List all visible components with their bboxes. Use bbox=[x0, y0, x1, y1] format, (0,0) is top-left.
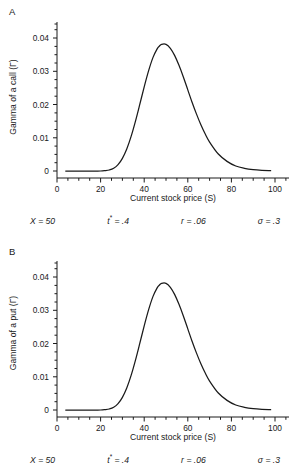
panel-b: B bbox=[0, 240, 301, 473]
panel-b-params: X = 50 t* = .4 r = .06 σ = .3 bbox=[30, 453, 280, 465]
param-strike-symbol: X bbox=[30, 455, 36, 465]
panel-b-xlabel: Current stock price (S) bbox=[57, 432, 289, 442]
param-rate: r = .06 bbox=[181, 214, 206, 226]
param-strike: X = 50 bbox=[30, 214, 55, 226]
y-major-ticks bbox=[53, 38, 57, 171]
y-tick-label-0: 0 bbox=[44, 166, 49, 176]
y-tick-label-4: 0.04 bbox=[33, 33, 50, 43]
gamma-call-curve bbox=[66, 44, 271, 171]
param-vol: σ = .3 bbox=[258, 453, 280, 465]
param-strike: X = 50 bbox=[30, 453, 55, 465]
param-vol: σ = .3 bbox=[258, 214, 280, 226]
param-vol-symbol: σ bbox=[258, 216, 263, 226]
param-vol-value: = .3 bbox=[265, 216, 280, 226]
gamma-figure: A bbox=[0, 0, 301, 473]
panel-a-params: X = 50 t* = .4 r = .06 σ = .3 bbox=[30, 214, 280, 226]
param-strike-value: = 50 bbox=[38, 455, 55, 465]
y-tick-label-3: 0.03 bbox=[33, 66, 50, 76]
param-time-sup: * bbox=[110, 453, 113, 460]
param-time-sup: * bbox=[110, 214, 113, 221]
panel-b-plot: 0 0.01 0.02 0.03 0.04 bbox=[0, 240, 301, 438]
y-major-ticks bbox=[53, 277, 57, 410]
panel-a-ylabel: Gamma of a call (Γ) bbox=[8, 22, 18, 172]
y-tick-label-2: 0.02 bbox=[33, 100, 50, 110]
y-tick-label-0: 0 bbox=[44, 405, 49, 415]
panel-a-plot: 0 0.01 0.02 0.03 0.04 bbox=[0, 0, 301, 200]
param-time-value: = .4 bbox=[114, 455, 129, 465]
param-time-value: = .4 bbox=[114, 216, 129, 226]
param-rate-value: = .06 bbox=[186, 455, 205, 465]
param-strike-value: = 50 bbox=[38, 216, 55, 226]
y-tick-label-3: 0.03 bbox=[33, 305, 50, 315]
param-rate-value: = .06 bbox=[186, 216, 205, 226]
param-rate: r = .06 bbox=[181, 453, 206, 465]
param-vol-value: = .3 bbox=[265, 455, 280, 465]
panel-a: A bbox=[0, 0, 301, 240]
panel-b-ylabel: Gamma of a put (Γ) bbox=[8, 258, 18, 408]
gamma-put-curve bbox=[66, 283, 271, 410]
param-vol-symbol: σ bbox=[258, 455, 263, 465]
y-tick-label-1: 0.01 bbox=[33, 372, 50, 382]
param-strike-symbol: X bbox=[30, 216, 36, 226]
param-time: t* = .4 bbox=[107, 214, 129, 226]
y-tick-label-1: 0.01 bbox=[33, 133, 50, 143]
y-tick-label-2: 0.02 bbox=[33, 339, 50, 349]
panel-a-xlabel: Current stock price (S) bbox=[57, 193, 289, 203]
y-tick-label-4: 0.04 bbox=[33, 272, 50, 282]
param-rate-symbol: r bbox=[181, 216, 184, 226]
param-time: t* = .4 bbox=[107, 453, 129, 465]
param-rate-symbol: r bbox=[181, 455, 184, 465]
